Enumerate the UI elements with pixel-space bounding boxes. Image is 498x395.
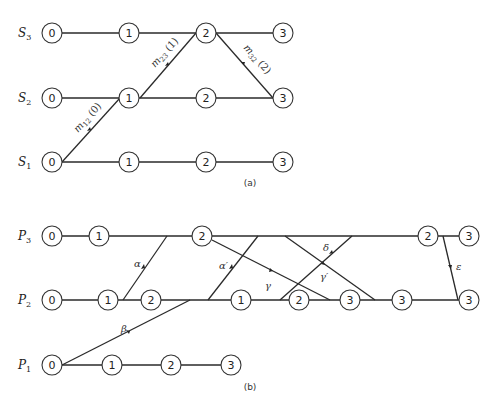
state-node: 3: [273, 88, 293, 108]
state-node: 1: [102, 355, 122, 375]
message-label-alpha: α: [134, 258, 141, 269]
svg-text:1: 1: [126, 92, 133, 105]
state-node: 3: [392, 290, 412, 310]
svg-text:1: 1: [105, 294, 112, 307]
message-label-beta: β: [120, 323, 127, 334]
state-node: 2: [418, 226, 438, 246]
svg-text:0: 0: [49, 27, 56, 40]
row-label-s1: S1: [18, 155, 31, 171]
figure-a: S3 S2 S1 m12 (0) m23 (1) m32 (2) 0 1 2 3…: [18, 23, 293, 188]
state-node: 2: [196, 88, 216, 108]
svg-text:1: 1: [109, 359, 116, 372]
svg-text:1: 1: [126, 27, 133, 40]
state-node: 1: [119, 88, 139, 108]
row-label-p1: P1: [17, 358, 31, 374]
svg-text:0: 0: [49, 230, 56, 243]
row-label-s3: S3: [18, 26, 31, 42]
state-node: 0: [42, 152, 62, 172]
row-label-s2: S2: [18, 91, 31, 107]
state-node: 3: [273, 152, 293, 172]
svg-text:3: 3: [399, 294, 406, 307]
state-node: 0: [42, 226, 62, 246]
svg-text:2: 2: [168, 359, 175, 372]
svg-text:1: 1: [96, 230, 103, 243]
state-node: 2: [192, 226, 212, 246]
svg-text:2: 2: [203, 27, 210, 40]
state-node: 2: [141, 290, 161, 310]
state-node: 3: [221, 355, 241, 375]
message-label-m32: m32 (2): [240, 42, 274, 77]
svg-text:2: 2: [296, 294, 303, 307]
svg-text:0: 0: [49, 156, 56, 169]
svg-text:3: 3: [228, 359, 235, 372]
svg-text:0: 0: [49, 359, 56, 372]
svg-text:2: 2: [425, 230, 432, 243]
caption-b: (b): [244, 382, 257, 392]
row-label-p3: P3: [17, 229, 31, 245]
state-node: 2: [196, 23, 216, 43]
svg-text:2: 2: [148, 294, 155, 307]
space-time-diagram: S3 S2 S1 m12 (0) m23 (1) m32 (2) 0 1 2 3…: [0, 0, 498, 395]
state-node: 0: [42, 355, 62, 375]
state-node: 1: [98, 290, 118, 310]
svg-text:0: 0: [49, 294, 56, 307]
state-node: 1: [119, 152, 139, 172]
message-label-gamma-prime: γ′: [320, 271, 329, 282]
state-node: 1: [119, 23, 139, 43]
svg-text:3: 3: [347, 294, 354, 307]
state-node: 3: [459, 226, 479, 246]
state-node: 1: [89, 226, 109, 246]
message-label-gamma: γ: [265, 280, 271, 291]
state-node: 0: [42, 290, 62, 310]
svg-text:2: 2: [203, 156, 210, 169]
caption-a: (a): [244, 178, 257, 188]
figure-b: P3 P2 P1 α β α′ γ γ′ δ ε 0 1 2 2 3: [17, 226, 479, 392]
svg-text:0: 0: [49, 92, 56, 105]
message-label-alpha-prime: α′: [219, 260, 229, 271]
message-label-delta: δ: [323, 242, 329, 253]
svg-text:1: 1: [126, 156, 133, 169]
state-node: 2: [289, 290, 309, 310]
svg-text:3: 3: [280, 92, 287, 105]
svg-text:3: 3: [466, 230, 473, 243]
svg-text:3: 3: [280, 156, 287, 169]
svg-text:2: 2: [199, 230, 206, 243]
row-label-p2: P2: [17, 293, 31, 309]
state-node: 3: [459, 290, 479, 310]
message-delta: [280, 236, 352, 300]
svg-text:1: 1: [238, 294, 245, 307]
state-node: 2: [196, 152, 216, 172]
message-label-m23: m23 (1): [148, 35, 182, 70]
state-node: 0: [42, 88, 62, 108]
svg-text:3: 3: [280, 27, 287, 40]
state-node: 2: [161, 355, 181, 375]
state-node: 3: [340, 290, 360, 310]
svg-text:3: 3: [466, 294, 473, 307]
svg-text:2: 2: [203, 92, 210, 105]
message-label-epsilon: ε: [456, 261, 461, 272]
state-node: 3: [273, 23, 293, 43]
state-node: 1: [231, 290, 251, 310]
state-node: 0: [42, 23, 62, 43]
